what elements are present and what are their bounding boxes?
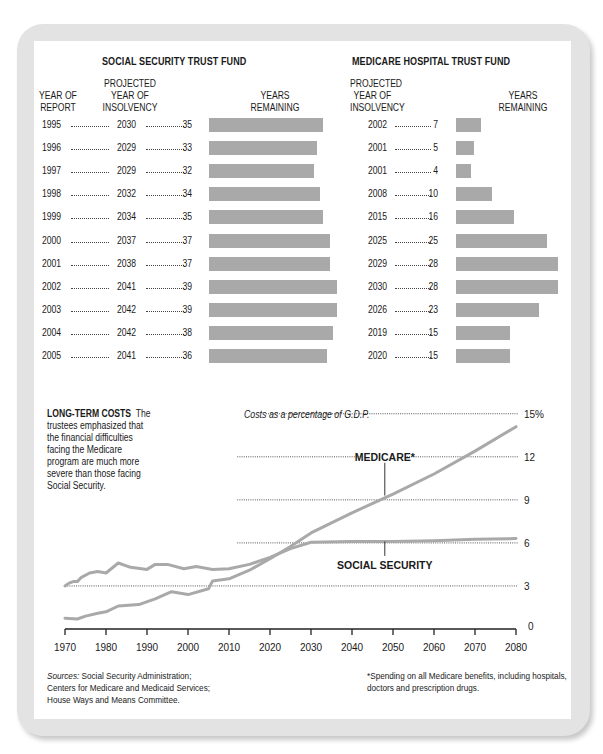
x-tick-label: 2060 <box>423 642 446 653</box>
x-tick-label: 1990 <box>136 642 159 653</box>
x-tick-label: 1970 <box>54 642 77 653</box>
medicare-label: MEDICARE* <box>355 451 416 463</box>
long-term-costs-chart: 03691215%Costs as a percentage of G.D.P.… <box>0 0 603 754</box>
y-tick-label: 6 <box>524 538 530 549</box>
x-tick-label: 2070 <box>464 642 487 653</box>
x-tick-label: 2030 <box>300 642 323 653</box>
x-tick-label: 2050 <box>382 642 405 653</box>
medicare-line <box>65 427 516 619</box>
y-tick-label: 9 <box>524 495 530 506</box>
x-tick-label: 2080 <box>505 642 528 653</box>
x-tick-label: 2000 <box>177 642 200 653</box>
x-tick-label: 2020 <box>259 642 282 653</box>
x-tick-label: 2010 <box>218 642 241 653</box>
y-tick-label: 12 <box>524 452 536 463</box>
y-tick-label: 15% <box>524 409 544 420</box>
y-tick-label: 3 <box>524 581 530 592</box>
x-tick-label: 1980 <box>95 642 118 653</box>
sources-note: Sources: Social Security Administration;… <box>47 670 237 706</box>
social-security-label: SOCIAL SECURITY <box>337 559 432 571</box>
y-tick-label: 0 <box>528 621 534 632</box>
axis-caption: Costs as a percentage of G.D.P. <box>244 408 369 420</box>
medicare-footnote: *Spending on all Medicare benefits, incl… <box>367 670 599 694</box>
x-tick-label: 2040 <box>341 642 364 653</box>
